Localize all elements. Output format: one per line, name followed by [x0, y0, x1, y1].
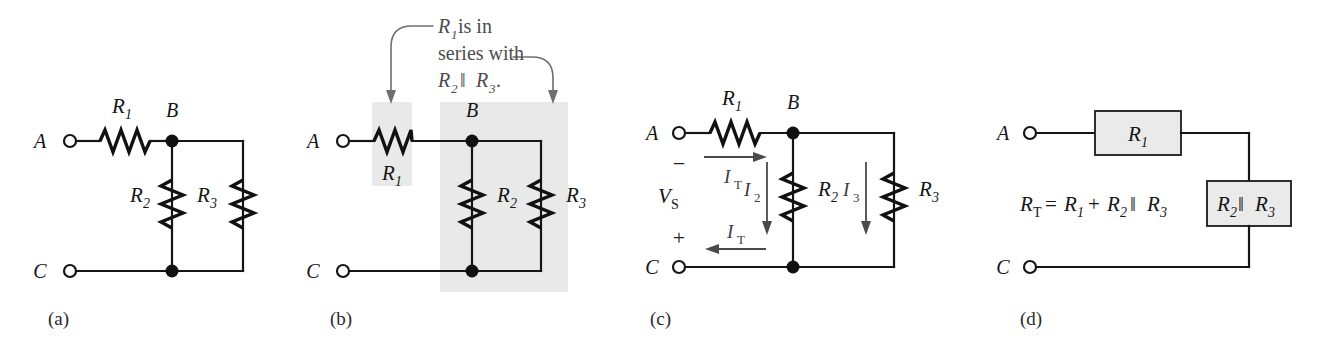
current-arrowhead-it-top [753, 152, 767, 162]
equation-lhs-r: R [1019, 192, 1033, 216]
panel-label-b: (b) [330, 308, 352, 330]
label-c-r2: R [817, 177, 831, 201]
label-block-r3: R [1254, 192, 1268, 216]
label-i3-sub: 3 [853, 190, 860, 205]
label-d-terminal-c: C [996, 256, 1010, 278]
label-c-r3-sub: 3 [931, 190, 939, 205]
annotation-line3-r3: R [475, 69, 488, 91]
junction-c-node-b [787, 127, 800, 140]
terminal-a [64, 135, 76, 147]
junction-c-node-bottom [787, 261, 800, 274]
label-r1-sub: 1 [125, 107, 132, 122]
label-b-node-b: B [466, 99, 478, 121]
terminal-d-a [1024, 127, 1036, 139]
annotation-line1-sub: 1 [451, 27, 458, 42]
label-c-terminal-a: A [644, 122, 659, 144]
label-r3-sub: 3 [209, 196, 217, 211]
label-b-r3: R [565, 183, 579, 207]
junction-node-b [166, 135, 179, 148]
label-c-r1: R [721, 86, 735, 110]
panel-label-c: (c) [650, 308, 671, 330]
label-block-r1: R [1127, 122, 1141, 146]
label-i3: I [842, 179, 851, 200]
label-d-terminal-a: A [995, 122, 1010, 144]
label-c-node-b: B [787, 91, 799, 113]
label-b-r3-sub: 3 [578, 196, 586, 211]
label-c-r1-sub: 1 [735, 99, 742, 114]
polarity-minus: − [673, 151, 685, 176]
equation-bar: ‖ [1130, 192, 1136, 216]
terminal-c-c [673, 261, 685, 273]
equation-t2-r: R [1106, 192, 1120, 216]
label-it-bottom-sub: T [737, 232, 745, 247]
label-r2: R [129, 183, 143, 207]
panel-label-a: (a) [48, 308, 69, 330]
annotation-line3-period: . [496, 69, 501, 91]
terminal-d-c [1024, 261, 1036, 273]
junction-node-bottom [166, 265, 179, 278]
resistor-r1-symbol [100, 130, 150, 152]
equation-t1-r: R [1063, 192, 1077, 216]
annotation-line3-bar: ‖ [460, 69, 466, 91]
label-c-terminal-c: C [645, 256, 659, 278]
label-r3: R [196, 183, 210, 207]
junction-b-node-b [466, 135, 479, 148]
label-block-par: ‖ [1238, 192, 1244, 216]
label-i2: I [743, 179, 752, 200]
panel-label-d: (d) [1020, 308, 1042, 330]
panel-b: R 1 is in series with R 2 ‖ R 3 . A C B … [305, 15, 586, 330]
label-b-terminal-a: A [305, 130, 320, 152]
current-arrowhead-i2 [762, 221, 772, 235]
label-it-bottom: I [726, 221, 735, 242]
label-block-r1-sub: 1 [1141, 135, 1148, 150]
leader-line-left [391, 26, 433, 94]
label-b-r1-sub: 1 [395, 174, 402, 189]
circuit-figure: A C B R 1 R 2 R 3 (a) R 1 is in series w… [0, 0, 1323, 354]
leader-arrowhead-right [548, 90, 558, 104]
label-r2-sub: 2 [143, 196, 150, 211]
label-c-r3: R [918, 177, 932, 201]
label-b-terminal-c: C [306, 260, 320, 282]
label-i2-sub: 2 [754, 190, 761, 205]
panel-d: A C R 1 R 2 ‖ R 3 R T = R 1 + R 2 ‖ R 3 … [995, 111, 1291, 330]
terminal-c-a [673, 127, 685, 139]
terminal-c [64, 265, 76, 277]
label-it-top: I [723, 166, 732, 187]
equation-t3-sub: 3 [1159, 205, 1167, 220]
panel-a: A C B R 1 R 2 R 3 (a) [32, 94, 254, 330]
annotation-line3-sub3: 3 [488, 81, 496, 96]
label-block-r2: R [1216, 192, 1230, 216]
panel-c: A C B R 1 R 2 R 3 − + V S I T I T I 2 I … [644, 86, 939, 330]
label-terminal-c: C [33, 260, 47, 282]
annotation-line1-rest: is in [458, 15, 492, 37]
annotation-line2: series with [438, 42, 524, 64]
annotation-line3-r2: R [437, 69, 450, 91]
label-source-v-sub: S [671, 197, 679, 212]
label-b-r2: R [496, 183, 510, 207]
equation-t2-sub: 2 [1120, 205, 1127, 220]
label-r1: R [111, 94, 125, 118]
equation-equals: = [1045, 192, 1057, 216]
terminal-b-c [337, 265, 349, 277]
equation-lhs-sub: T [1033, 205, 1042, 220]
leader-arrowhead-left [386, 90, 396, 104]
junction-b-node-bottom [466, 265, 479, 278]
polarity-plus: + [673, 225, 685, 250]
label-block-r3-sub: 3 [1267, 205, 1275, 220]
equation-t1-sub: 1 [1077, 205, 1084, 220]
label-b-r1: R [381, 161, 395, 185]
equation-t3-r: R [1146, 192, 1160, 216]
label-c-r2-sub: 2 [831, 190, 838, 205]
current-arrowhead-i3 [861, 221, 871, 235]
label-block-r2-sub: 2 [1230, 205, 1237, 220]
label-node-b: B [166, 99, 178, 121]
annotation-line3-sub2: 2 [451, 81, 458, 96]
terminal-b-a [337, 135, 349, 147]
label-b-r2-sub: 2 [510, 196, 517, 211]
label-terminal-a: A [32, 130, 47, 152]
equation-plus: + [1088, 192, 1100, 216]
annotation-line1-r: R [437, 15, 450, 37]
label-it-top-sub: T [734, 177, 742, 192]
resistor-c-r1-symbol [710, 122, 760, 144]
current-arrowhead-it-bottom [705, 244, 719, 254]
